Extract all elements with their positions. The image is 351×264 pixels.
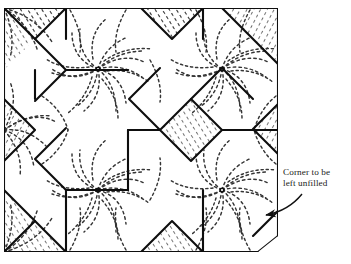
pattern-figure: Corner to be left unfilled	[0, 0, 351, 264]
callout-arrow	[266, 194, 302, 215]
corner-note-line-1: Corner to be	[283, 167, 330, 178]
pattern-drawing	[0, 0, 351, 264]
corner-note-label: Corner to be left unfilled	[283, 167, 330, 188]
tiling-group	[4, 8, 285, 252]
corner-note-line-2: left unfilled	[283, 178, 330, 189]
